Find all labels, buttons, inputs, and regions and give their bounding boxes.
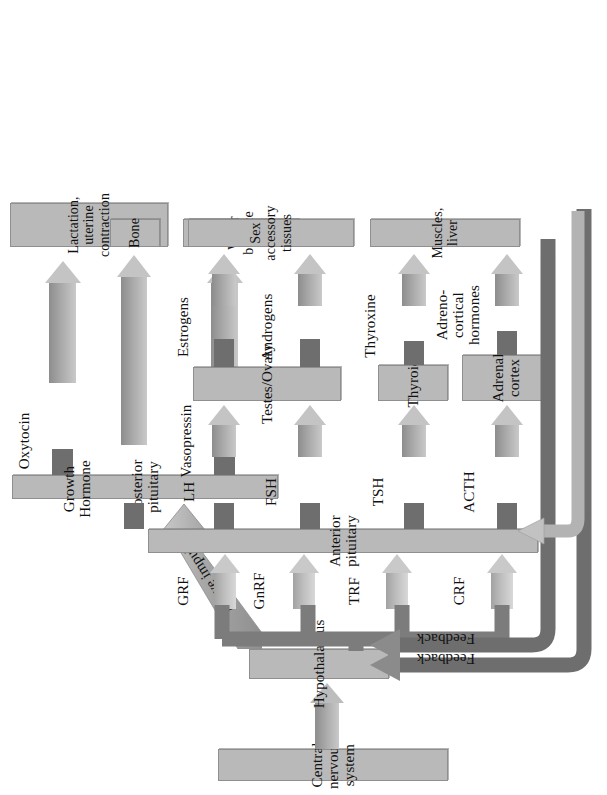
label-lh: LH [182, 464, 198, 520]
node-posterior-pituitary: Posterior pituitary [12, 475, 278, 499]
arrow-growth-hormone-to-bone [121, 255, 147, 445]
feedback-inner-svg [248, 235, 558, 655]
arrow-lh-to-testes-ovary [212, 405, 236, 457]
endocrine-axis-diagram: Central nervous system Hypothalamus Nerv… [0, 0, 607, 795]
feedback-loop-anterior [516, 207, 586, 547]
feedback-anterior-svg [516, 207, 586, 547]
stub-lh [214, 503, 234, 529]
label-feedback-inner: Feedback [391, 630, 501, 646]
label-growth-hormone: Growth Hormone [62, 445, 94, 533]
node-central-nervous-system: Central nervous system [218, 749, 448, 781]
node-label-lactation: Lactation, uterine contraction [66, 191, 111, 259]
label-grf: GRF [176, 563, 192, 619]
node-bone: Bone [110, 219, 160, 247]
stub-estrogens [214, 339, 234, 367]
node-label-bone: Bone [127, 216, 142, 250]
arrow-oxytocin-to-lactation [49, 261, 76, 383]
arrow-estrogens-to-sex-accessory [212, 254, 236, 306]
label-estrogens: Estrogens [176, 281, 192, 373]
label-oxytocin: Oxytocin [17, 395, 33, 487]
stub-growth-hormone [124, 503, 144, 529]
feedback-loop-inner [248, 235, 558, 655]
arrow-grf [214, 553, 236, 609]
